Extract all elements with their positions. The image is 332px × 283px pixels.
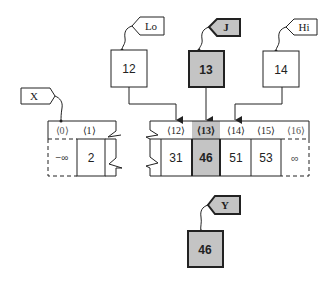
- x-break-top: [108, 131, 121, 137]
- seg-break-top: [146, 130, 158, 139]
- x-value-1: 2: [88, 151, 95, 165]
- seg-value-53: 53: [259, 151, 273, 165]
- y-tag-label: Y: [221, 199, 229, 211]
- pointer-arrows: [129, 87, 282, 120]
- array-x: X ⟨0⟩ ⟨1⟩ −∞ 2: [21, 88, 122, 176]
- seg-index-15: ⟨15⟩: [257, 125, 275, 136]
- seg-index-16: ⟨16⟩: [287, 125, 305, 136]
- lo-tag-label: Lo: [145, 20, 158, 32]
- j-variable: J 13: [189, 19, 240, 87]
- hi-arrow: [235, 87, 282, 120]
- y-value: 46: [198, 243, 212, 257]
- x-edge: [105, 139, 116, 176]
- x-string: [55, 96, 62, 121]
- seg-index-14: ⟨14⟩: [227, 125, 245, 136]
- seg-index-13: ⟨13⟩: [197, 125, 215, 136]
- lo-string: [122, 26, 132, 50]
- x-value-0: −∞: [56, 152, 69, 163]
- y-string: [201, 205, 208, 231]
- seg-value-51: 51: [229, 151, 243, 165]
- seg-value-46: 46: [199, 151, 213, 165]
- x-tag-label: X: [30, 90, 38, 102]
- x-break-bottom: [109, 158, 122, 168]
- seg-value-31: 31: [169, 151, 183, 165]
- hi-string: [276, 27, 286, 51]
- hi-variable: Hi 14: [263, 19, 317, 87]
- lo-value: 12: [122, 62, 136, 76]
- seg-index-12: ⟨12⟩: [167, 125, 185, 136]
- x-index-0: ⟨0⟩: [56, 125, 69, 136]
- array-segment: ⟨12⟩ ⟨13⟩ ⟨14⟩ ⟨15⟩ ⟨16⟩ 31 46 51 53 ∞: [146, 121, 309, 176]
- binary-search-diagram: Lo 12 J 13 Hi 14 X ⟨0⟩ ⟨1⟩: [0, 0, 332, 283]
- hi-tag-label: Hi: [299, 21, 310, 33]
- lo-variable: Lo 12: [111, 17, 164, 87]
- x-index-1: ⟨1⟩: [83, 125, 96, 136]
- y-variable: Y 46: [188, 196, 240, 267]
- j-value: 13: [199, 63, 213, 77]
- j-string: [199, 27, 209, 50]
- seg-value-inf: ∞: [291, 152, 299, 164]
- hi-value: 14: [274, 63, 288, 77]
- lo-arrow: [129, 87, 176, 120]
- x-tag: [21, 88, 55, 104]
- j-tag-label: J: [223, 21, 229, 33]
